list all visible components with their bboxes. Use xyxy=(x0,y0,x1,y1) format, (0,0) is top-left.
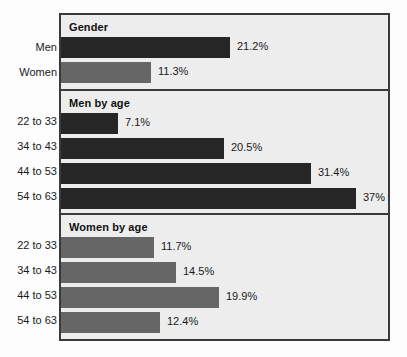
bar xyxy=(61,62,151,83)
bar-value-label: 19.9% xyxy=(226,290,257,302)
category-label: 44 to 53 xyxy=(0,165,57,177)
bar-row: 14.5% xyxy=(61,262,388,283)
bar-value-label: 11.3% xyxy=(158,65,188,77)
chart-section: Women by age11.7%14.5%19.9%12.4% xyxy=(61,213,388,337)
category-label-column: MenWomen22 to 3334 to 4344 to 5354 to 63… xyxy=(0,15,57,339)
category-label: 54 to 63 xyxy=(0,314,57,326)
chart-section: Gender21.2%11.3% xyxy=(61,15,388,89)
section-title: Men by age xyxy=(69,97,130,109)
bar-row: 37% xyxy=(61,188,388,209)
bar-value-label: 21.2% xyxy=(237,40,268,52)
category-label: 44 to 53 xyxy=(0,289,57,301)
bar-value-label: 20.5% xyxy=(231,141,262,153)
bar xyxy=(61,113,118,134)
bar-value-label: 11.7% xyxy=(161,240,191,252)
category-label: 34 to 43 xyxy=(0,140,57,152)
bar-value-label: 14.5% xyxy=(183,265,214,277)
bar-row: 20.5% xyxy=(61,138,388,159)
bar-value-label: 7.1% xyxy=(125,116,150,128)
section-title: Women by age xyxy=(69,221,148,233)
bar xyxy=(61,37,230,58)
chart-frame: MenWomen22 to 3334 to 4344 to 5354 to 63… xyxy=(59,13,390,341)
category-label: 22 to 33 xyxy=(0,115,57,127)
bar xyxy=(61,312,160,333)
bar-row: 7.1% xyxy=(61,113,388,134)
bar xyxy=(61,163,311,184)
bar-value-label: 37% xyxy=(363,191,385,203)
bar-row: 11.7% xyxy=(61,237,388,258)
bar-row: 19.9% xyxy=(61,287,388,308)
category-label: Women xyxy=(0,66,57,78)
bar-row: 21.2% xyxy=(61,37,388,58)
category-label: 54 to 63 xyxy=(0,190,57,202)
bar xyxy=(61,262,176,283)
bar-row: 11.3% xyxy=(61,62,388,83)
category-label: 34 to 43 xyxy=(0,264,57,276)
bar xyxy=(61,237,154,258)
bar-row: 12.4% xyxy=(61,312,388,333)
bar xyxy=(61,138,224,159)
category-label: 22 to 33 xyxy=(0,239,57,251)
chart-section: Men by age7.1%20.5%31.4%37% xyxy=(61,89,388,213)
bar-value-label: 31.4% xyxy=(318,166,349,178)
bar-value-label: 12.4% xyxy=(167,315,198,327)
chart-canvas: MenWomen22 to 3334 to 4344 to 5354 to 63… xyxy=(0,0,407,357)
section-title: Gender xyxy=(69,21,108,33)
bar-row: 31.4% xyxy=(61,163,388,184)
category-label: Men xyxy=(0,41,57,53)
bar xyxy=(61,188,356,209)
bar xyxy=(61,287,219,308)
